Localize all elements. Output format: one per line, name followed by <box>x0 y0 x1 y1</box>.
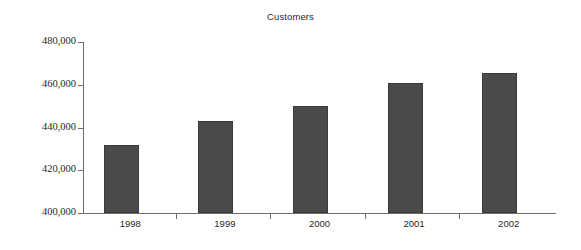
y-axis-tick-label: 440,000 <box>42 121 76 132</box>
y-axis-tick-label: 460,000 <box>42 78 76 89</box>
x-axis-tick-labels: 19981999200020012002 <box>83 0 556 250</box>
y-axis-tick-labels: 480,000460,000440,000420,000400,000 <box>0 42 76 213</box>
x-axis-tick-label: 1999 <box>195 218 255 229</box>
y-axis-tick-label: 480,000 <box>42 35 76 46</box>
y-axis-tick-label: 420,000 <box>42 163 76 174</box>
x-axis-tick-label: 2000 <box>290 218 350 229</box>
chart-page: Customers 480,000460,000440,000420,00040… <box>0 0 581 250</box>
y-axis-tick-label: 400,000 <box>42 206 76 217</box>
x-axis-tick-label: 1998 <box>100 218 160 229</box>
x-axis-tick-label: 2001 <box>384 218 444 229</box>
x-axis-tick-label: 2002 <box>479 218 539 229</box>
